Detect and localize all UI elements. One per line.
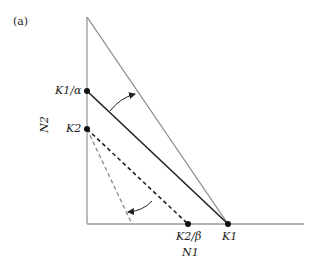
label-k1: K1 (222, 230, 237, 243)
point-k1-alpha (84, 88, 90, 94)
gray-dashed-isocline (87, 129, 132, 224)
point-k2-beta (185, 221, 191, 227)
label-k2-beta: K2/β (176, 230, 201, 243)
isocline-diagram: (a) K1/α K2 K2/β K1 N1 N2 (0, 0, 317, 275)
point-k2 (84, 126, 90, 132)
diagram-canvas (0, 0, 317, 275)
label-k1-alpha: K1/α (55, 84, 81, 97)
species1-isocline (87, 91, 228, 224)
y-axis-label: N2 (38, 116, 51, 133)
rotation-arrow-down (128, 201, 152, 212)
point-k1 (225, 221, 231, 227)
rotation-arrow-up (110, 94, 135, 111)
x-axis-label: N1 (182, 246, 199, 259)
label-k2: K2 (66, 122, 81, 135)
outer-gray-isocline (87, 17, 228, 224)
